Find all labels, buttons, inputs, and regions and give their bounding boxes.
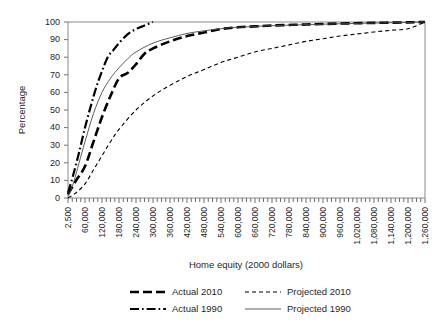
- legend-label: Actual 1990: [172, 303, 222, 314]
- x-tick-label: 360,000: [165, 207, 175, 238]
- x-tick-label: 2,500: [63, 207, 73, 229]
- x-tick-label: 600,000: [233, 207, 243, 238]
- x-tick-label: 720,000: [267, 207, 277, 238]
- x-tick-label: 1,080,000: [369, 207, 379, 245]
- x-tick-label: 840,000: [301, 207, 311, 238]
- y-tick-label: 20: [50, 158, 60, 168]
- x-tick-label: 1,140,000: [386, 207, 396, 245]
- x-tick-label: 780,000: [284, 207, 294, 238]
- x-tick-label: 960,000: [335, 207, 345, 238]
- y-axis-title: Percentage: [16, 86, 27, 135]
- chart-background: [0, 0, 445, 327]
- x-tick-label: 1,020,000: [352, 207, 362, 245]
- y-tick-label: 60: [50, 87, 60, 97]
- x-tick-label: 540,000: [216, 207, 226, 238]
- x-tick-label: 660,000: [250, 207, 260, 238]
- x-tick-label: 1,200,000: [403, 207, 413, 245]
- legend-label: Projected 1990: [287, 303, 351, 314]
- x-axis-title: Home equity (2000 dollars): [189, 259, 303, 270]
- y-tick-label: 40: [50, 122, 60, 132]
- x-tick-label: 180,000: [114, 207, 124, 238]
- y-tick-label: 100: [45, 17, 60, 27]
- y-tick-label: 90: [50, 34, 60, 44]
- x-tick-label: 240,000: [131, 207, 141, 238]
- x-tick-label: 480,000: [199, 207, 209, 238]
- x-tick-label: 60,000: [80, 207, 90, 233]
- y-tick-label: 0: [55, 193, 60, 203]
- legend-label: Projected 2010: [287, 286, 351, 297]
- legend-label: Actual 2010: [172, 286, 222, 297]
- y-tick-label: 80: [50, 52, 60, 62]
- home-equity-cumulative-distribution-chart: 0102030405060708090100 2,50060,000120,00…: [0, 0, 445, 327]
- x-tick-label: 900,000: [318, 207, 328, 238]
- chart-figure: 0102030405060708090100 2,50060,000120,00…: [0, 0, 445, 327]
- y-tick-label: 30: [50, 140, 60, 150]
- y-tick-label: 50: [50, 105, 60, 115]
- x-tick-label: 1,260,000: [420, 207, 430, 245]
- x-tick-label: 120,000: [97, 207, 107, 238]
- y-tick-label: 70: [50, 70, 60, 80]
- x-tick-label: 300,000: [148, 207, 158, 238]
- y-tick-label: 10: [50, 175, 60, 185]
- x-tick-label: 420,000: [182, 207, 192, 238]
